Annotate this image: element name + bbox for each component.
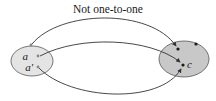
diagram-title: Not one-to-one (73, 3, 143, 15)
codomain-point-2 (194, 42, 197, 45)
domain-point-top (30, 44, 33, 47)
not-one-to-one-diagram: Not one-to-one a a' c (0, 0, 216, 101)
label-c: c (187, 58, 192, 70)
domain-point-a (37, 55, 40, 58)
label-a-prime: a' (25, 61, 34, 73)
codomain-point-c (181, 63, 184, 66)
domain-point-a-prime (37, 66, 40, 69)
mapping-arrow-a-prime-to-c (39, 68, 181, 94)
codomain-set-ellipse (159, 41, 209, 77)
codomain-point-1 (176, 47, 179, 50)
